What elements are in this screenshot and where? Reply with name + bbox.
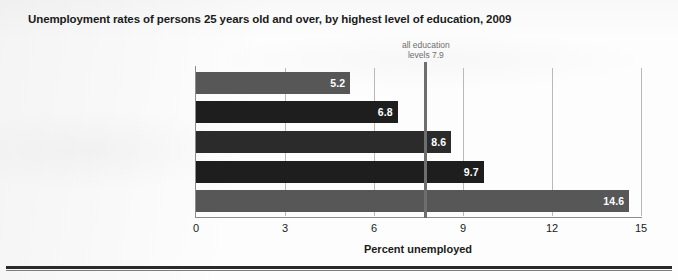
bar-row: 8.6 (196, 131, 641, 153)
bar-value-label: 6.8 (378, 106, 398, 118)
bar: 8.6 (196, 131, 451, 153)
bar-value-label: 9.7 (464, 166, 484, 178)
x-axis-title: Percent unemployed (364, 243, 472, 255)
reference-line-label-line2: levels 7.9 (402, 51, 450, 61)
x-tick-label: 9 (460, 222, 466, 234)
bar-value-label: 8.6 (431, 136, 451, 148)
x-tick-label: 6 (371, 222, 377, 234)
reference-line (424, 62, 427, 218)
bottom-rule (6, 266, 672, 269)
bar-row: 9.7 (196, 161, 641, 183)
chart-figure: Unemployment rates of persons 25 years o… (0, 0, 678, 280)
chart-title: Unemployment rates of persons 25 years o… (28, 13, 511, 25)
bar-row: 14.6 (196, 190, 641, 212)
bar: 9.7 (196, 161, 484, 183)
bar-value-label: 14.6 (603, 195, 629, 207)
x-tick-label: 0 (193, 222, 199, 234)
x-tick-label: 3 (282, 222, 288, 234)
bar-row: 6.8 (196, 101, 641, 123)
gridline (641, 68, 642, 216)
reference-line-label: all educationlevels 7.9 (402, 41, 450, 60)
x-tick-label: 15 (635, 222, 647, 234)
bottom-rule-thin (6, 270, 672, 271)
bar: 5.2 (196, 72, 350, 94)
bar-value-label: 5.2 (330, 77, 350, 89)
bar-row: 5.2 (196, 72, 641, 94)
bar: 14.6 (196, 190, 629, 212)
plot-area: 5.26.88.69.714.6 (196, 68, 641, 216)
bar: 6.8 (196, 101, 398, 123)
x-axis-line (195, 217, 642, 218)
x-tick-label: 12 (546, 222, 558, 234)
